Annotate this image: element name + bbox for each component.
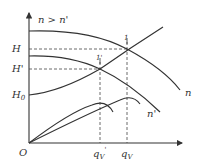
pump-speed-diagram: n > n' H H' H0 O qV' qV n n' 1 1'	[0, 0, 198, 164]
label-H0: H0	[11, 89, 26, 102]
pump-curve-n	[29, 31, 180, 90]
label-origin: O	[19, 147, 27, 158]
condition-label: n > n'	[38, 14, 68, 25]
label-H-prime: H'	[11, 63, 23, 74]
label-point-1: 1	[124, 34, 128, 42]
label-qV-prime: qV'	[93, 146, 106, 161]
label-H0-sub: 0	[21, 94, 26, 102]
label-curve-n-prime: n'	[147, 108, 156, 119]
label-qV-sub: V	[127, 153, 133, 161]
efficiency-curve-n	[29, 98, 140, 143]
label-point-1-prime: 1'	[96, 54, 102, 62]
label-H0-main: H	[11, 89, 21, 100]
label-curve-n: n	[185, 87, 191, 98]
label-H: H	[11, 43, 21, 54]
label-qV: qV	[121, 148, 133, 161]
label-qV-prime-mark: '	[104, 146, 106, 154]
label-qV-prime-sub: V	[99, 153, 105, 161]
